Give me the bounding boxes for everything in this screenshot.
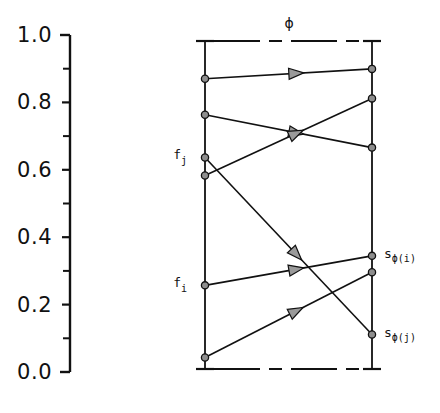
axis-tick-label: 0.2 bbox=[17, 293, 52, 317]
right-column-node bbox=[368, 252, 375, 259]
figure-canvas: 1.00.80.60.40.20.0 bbox=[0, 0, 440, 413]
left-column-node bbox=[201, 111, 208, 118]
edge-arrowhead bbox=[288, 262, 305, 275]
left-node-label-f_j-base: f bbox=[173, 147, 181, 162]
left-node-label-f_i: fi bbox=[173, 275, 187, 294]
left-column-node bbox=[201, 354, 208, 361]
right-node-label-s_phi_i: sϕ(i) bbox=[384, 246, 416, 265]
right-node-label-s_phi_i-base: s bbox=[384, 246, 392, 261]
left-node-label-f_j-subscript: j bbox=[181, 155, 187, 166]
arrow-layer bbox=[287, 67, 305, 319]
axis-tick-label: 0.0 bbox=[17, 360, 52, 384]
left-column-node bbox=[201, 154, 208, 161]
left-node-label-f_i-subscript: i bbox=[181, 283, 187, 294]
permutation-diagram: fjfisϕ(i)sϕ(j) ϕ bbox=[173, 15, 416, 369]
right-node-label-s_phi_j-subscript: ϕ(j) bbox=[392, 332, 416, 343]
permutation-edge bbox=[205, 157, 372, 334]
left-node-label-f_i-base: f bbox=[173, 275, 181, 290]
figure-root: 1.00.80.60.40.20.0 bbox=[0, 0, 440, 413]
edge-layer bbox=[205, 69, 372, 358]
axis-tick-label-group: 1.00.80.60.40.20.0 bbox=[17, 23, 52, 384]
left-column-node bbox=[201, 75, 208, 82]
left-column-node bbox=[201, 282, 208, 289]
permutation-symbol-label: ϕ bbox=[284, 15, 293, 31]
axis-tick-label: 1.0 bbox=[17, 23, 52, 47]
permutation-edge bbox=[205, 272, 372, 357]
right-column-node bbox=[368, 269, 375, 276]
right-column-node bbox=[368, 331, 375, 338]
right-node-label-s_phi_j-base: s bbox=[384, 325, 392, 340]
right-node-label-s_phi_j: sϕ(j) bbox=[384, 325, 416, 344]
axis-tick-group bbox=[60, 35, 70, 372]
left-column-node bbox=[201, 172, 208, 179]
axis-tick-label: 0.4 bbox=[17, 225, 52, 249]
right-column-node bbox=[368, 95, 375, 102]
value-axis: 1.00.80.60.40.20.0 bbox=[17, 23, 70, 384]
right-node-label-s_phi_i-subscript: ϕ(i) bbox=[392, 253, 416, 264]
axis-tick-label: 0.8 bbox=[17, 90, 52, 114]
right-column-node bbox=[368, 65, 375, 72]
edge-arrowhead bbox=[289, 67, 305, 79]
right-column-node bbox=[368, 144, 375, 151]
left-node-label-f_j: fj bbox=[173, 147, 187, 166]
axis-tick-label: 0.6 bbox=[17, 158, 52, 182]
edge-arrowhead bbox=[287, 303, 305, 320]
